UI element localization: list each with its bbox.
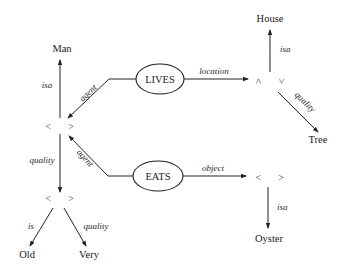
- node-man: Man: [52, 43, 72, 54]
- label-oyster-isa: isa: [277, 202, 288, 212]
- node-tree: Tree: [309, 134, 328, 145]
- entity-node-close: >: [68, 121, 74, 132]
- label-old-is: is: [28, 221, 35, 231]
- location-node-close: >: [276, 78, 287, 84]
- node-oyster: Oyster: [255, 233, 283, 244]
- entity-node-open: <: [45, 121, 51, 132]
- label-entity-quality: quality: [30, 155, 55, 165]
- label-eats-object: object: [202, 163, 224, 173]
- node-old: Old: [19, 249, 36, 260]
- node-lives-label: LIVES: [145, 74, 175, 85]
- label-man-isa: isa: [42, 80, 53, 90]
- node-very: Very: [79, 249, 100, 260]
- node-eats-label: EATS: [145, 171, 170, 182]
- location-node-open: <: [253, 78, 264, 84]
- node-house: House: [257, 13, 284, 24]
- quality-node-close: >: [68, 193, 74, 204]
- label-very-quality: quality: [84, 221, 109, 231]
- object-node-open: <: [255, 172, 261, 183]
- semantic-network-diagram: Man isa < > agent LIVES location < > Hou…: [0, 0, 343, 272]
- label-eats-agent: agent: [75, 147, 96, 169]
- label-lives-agent: agent: [77, 82, 99, 103]
- label-lives-location: location: [199, 66, 229, 76]
- object-node-close: >: [278, 172, 284, 183]
- quality-node-open: <: [45, 193, 51, 204]
- label-house-isa: isa: [280, 44, 291, 54]
